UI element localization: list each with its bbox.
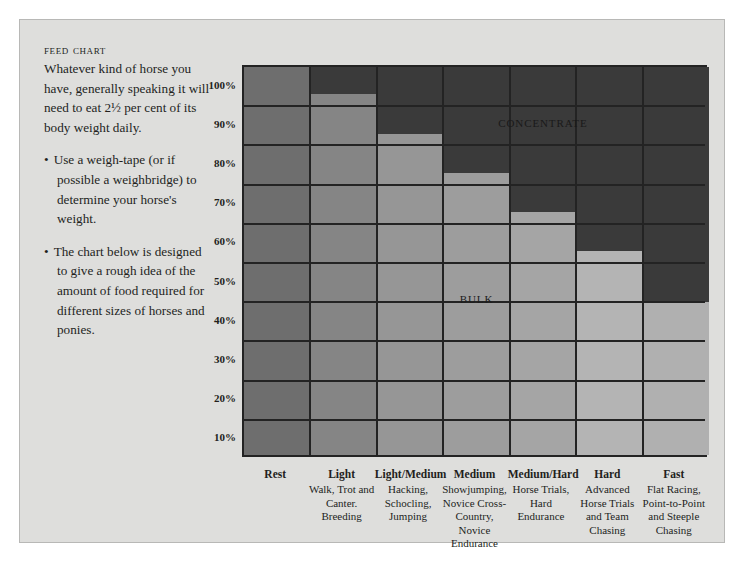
- bulk-segment: [643, 298, 709, 455]
- chart-grid: ConcentrateBulk: [242, 65, 707, 457]
- bulk-segment: [576, 247, 642, 455]
- y-axis-tick-label: 20%: [192, 392, 236, 404]
- concentrate-segment: [310, 67, 376, 94]
- x-axis-category-title: Medium: [441, 467, 507, 481]
- grid-line-vertical: [376, 67, 378, 455]
- x-axis-category-title: Light/Medium: [375, 467, 441, 481]
- x-axis-category-title: Rest: [242, 467, 308, 481]
- y-axis-tick-label: 90%: [192, 118, 236, 130]
- grid-line-vertical: [642, 67, 644, 455]
- x-axis-label-light-medium: Light/MediumHacking, Schocling, Jumping: [375, 467, 441, 524]
- y-axis-tick-label: 100%: [192, 79, 236, 91]
- x-axis-category-title: Hard: [574, 467, 640, 481]
- bullet-marker-icon: •: [44, 152, 54, 167]
- y-axis-tick-label: 10%: [192, 431, 236, 443]
- y-axis-tick-label: 60%: [192, 235, 236, 247]
- y-axis-tick-label: 30%: [192, 353, 236, 365]
- bullet-marker-icon: •: [44, 244, 54, 259]
- grid-line-vertical: [309, 67, 311, 455]
- grid-line-horizontal: [244, 223, 705, 225]
- region-label-concentrate: Concentrate: [498, 113, 587, 130]
- x-axis-category-description: Advanced Horse Trials and Team Chasing: [574, 483, 640, 537]
- x-axis-category-description: Horse Trials, Hard Endurance: [508, 483, 574, 524]
- chart-column-light-medium: [377, 67, 443, 455]
- concentrate-segment: [510, 67, 576, 212]
- x-axis-label-light: LightWalk, Trot and Canter. Breeding: [308, 467, 374, 524]
- grid-line-horizontal: [244, 419, 705, 421]
- grid-line-horizontal: [244, 105, 705, 107]
- feed-chart-plot: ConcentrateBulk: [242, 65, 707, 457]
- intro-text-block: Feed Chart Whatever kind of horse you ha…: [44, 42, 212, 353]
- list-item-text: Use a weigh-tape (or if possible a weigh…: [54, 152, 197, 226]
- x-axis-category-title: Medium/Hard: [508, 467, 574, 481]
- grid-line-horizontal: [244, 380, 705, 382]
- x-axis-category-title: Fast: [641, 467, 707, 481]
- bulk-segment: [377, 130, 443, 455]
- chart-column-rest: [244, 67, 310, 455]
- x-axis-label-fast: FastFlat Racing, Point-to-Point and Stee…: [641, 467, 707, 537]
- grid-line-horizontal: [244, 184, 705, 186]
- x-axis-label-hard: HardAdvanced Horse Trials and Team Chasi…: [574, 467, 640, 537]
- page-panel: Feed Chart Whatever kind of horse you ha…: [20, 20, 724, 542]
- x-axis-category-description: Showjumping, Novice Cross-Country, Novic…: [441, 483, 507, 551]
- grid-line-horizontal: [244, 262, 705, 264]
- x-axis-category-description: Walk, Trot and Canter. Breeding: [308, 483, 374, 524]
- x-axis-category-description: Flat Racing, Point-to-Point and Steeple …: [641, 483, 707, 537]
- grid-line-vertical: [442, 67, 444, 455]
- bullet-list: •Use a weigh-tape (or if possible a weig…: [44, 150, 212, 339]
- x-axis: RestLightWalk, Trot and Canter. Breeding…: [242, 467, 707, 562]
- chart-column-light: [310, 67, 376, 455]
- y-axis-tick-label: 50%: [192, 275, 236, 287]
- bulk-segment: [244, 67, 310, 455]
- grid-line-horizontal: [244, 340, 705, 342]
- concentrate-segment: [377, 67, 443, 134]
- y-axis-tick-label: 40%: [192, 314, 236, 326]
- list-item-text: The chart below is designed to give a ro…: [54, 244, 205, 337]
- list-item: •Use a weigh-tape (or if possible a weig…: [44, 150, 212, 228]
- page-title: Feed Chart: [44, 42, 212, 58]
- x-axis-label-rest: Rest: [242, 467, 308, 483]
- x-axis-category-description: Hacking, Schocling, Jumping: [375, 483, 441, 524]
- y-axis-tick-label: 80%: [192, 157, 236, 169]
- chart-column-fast: [643, 67, 709, 455]
- x-axis-label-medium: MediumShowjumping, Novice Cross-Country,…: [441, 467, 507, 551]
- bulk-segment: [443, 169, 509, 455]
- x-axis-label-medium-hard: Medium/HardHorse Trials, Hard Endurance: [508, 467, 574, 524]
- list-item: •The chart below is designed to give a r…: [44, 242, 212, 340]
- intro-paragraph: Whatever kind of horse you have, general…: [44, 59, 212, 137]
- region-label-bulk: Bulk: [460, 290, 494, 307]
- y-axis: 100%90%80%70%60%50%40%30%20%10%: [188, 65, 236, 457]
- grid-line-horizontal: [244, 144, 705, 146]
- x-axis-category-title: Light: [308, 467, 374, 481]
- y-axis-tick-label: 70%: [192, 196, 236, 208]
